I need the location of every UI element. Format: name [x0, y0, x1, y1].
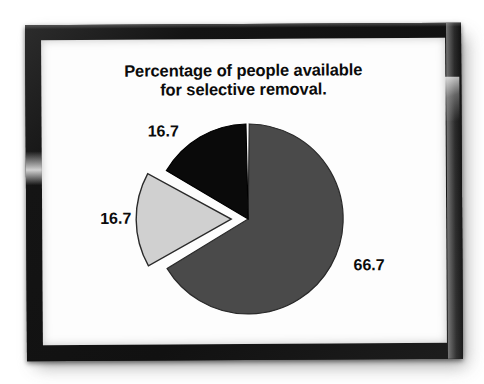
frame-corner-glare — [443, 77, 459, 121]
frame-left-glare — [26, 151, 42, 185]
frame-right-bevel — [446, 23, 463, 359]
pie-label-light-gray: 16.7 — [100, 210, 131, 228]
framed-chart-scene: Percentage of people available for selec… — [0, 0, 484, 384]
pie-svg — [41, 38, 447, 345]
pie-label-dark-gray: 66.7 — [353, 256, 384, 274]
chart-mat: Percentage of people available for selec… — [41, 38, 447, 345]
pie-chart: Percentage of people available for selec… — [41, 38, 447, 345]
frame-top-highlight — [25, 23, 461, 30]
picture-frame: Percentage of people available for selec… — [25, 23, 463, 362]
pie-graphic — [41, 38, 447, 345]
pie-label-black: 16.7 — [148, 122, 179, 140]
